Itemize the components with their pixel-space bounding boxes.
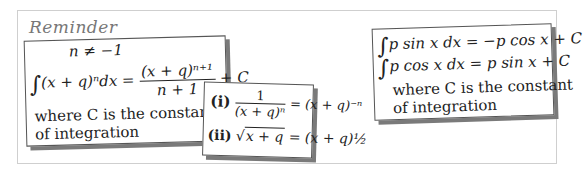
- index-law-i: (i) 1 (x + q)ⁿ = (x + q)⁻ⁿ: [210, 87, 363, 122]
- note-line-2: of integration: [393, 96, 497, 117]
- trig-integrals-card: ∫p sin x dx = −p cos x + C ∫p cos x dx =…: [372, 23, 555, 121]
- reminder-title: Reminder: [29, 17, 117, 37]
- condition-text: n ≠ −1: [69, 41, 123, 60]
- index-laws-card: (i) 1 (x + q)ⁿ = (x + q)⁻ⁿ (ii) √x + q =…: [202, 82, 314, 159]
- note-line-2: of integration: [35, 123, 139, 144]
- note-line-1: where C is the constant: [34, 103, 215, 126]
- power-rule-card: n ≠ −1 ∫(x + q)ⁿdx = (x + q)ⁿ⁺¹ n + 1 + …: [24, 35, 229, 146]
- index-law-ii: (ii) √x + q = (x + q)½: [207, 127, 367, 147]
